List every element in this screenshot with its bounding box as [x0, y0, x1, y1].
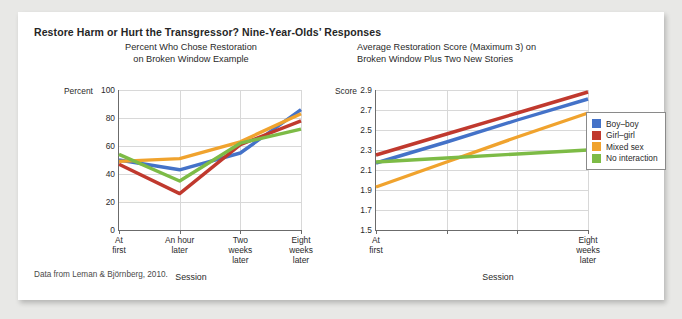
x-tick-label: At first — [347, 235, 405, 255]
legend-item-label: Girl–girl — [606, 130, 635, 140]
source-note: Data from Leman & Björnberg, 2010. — [34, 270, 168, 279]
y-tick-label: 2.7 — [360, 105, 372, 115]
legend-item[interactable]: Girl–girl — [592, 130, 658, 140]
x-tick-mark — [240, 230, 241, 234]
x-tick-label: Two weeks later — [211, 235, 269, 265]
x-tick-label: Eight weeks later — [272, 235, 330, 265]
legend-swatch-icon — [592, 131, 601, 140]
chart-title-right: Average Restoration Score (Maximum 3) on… — [333, 42, 663, 65]
y-axis-label-right: Score — [335, 86, 357, 96]
y-tick-label: 2.9 — [360, 85, 372, 95]
chart-panel-left: Percent Who Chose Restoration on Broken … — [56, 42, 326, 272]
y-axis-label-left: Percent — [64, 86, 93, 96]
legend-swatch-icon — [592, 154, 601, 163]
legend: Boy–boyGirl–girlMixed sexNo interaction — [586, 112, 666, 170]
legend-item-label: Boy–boy — [606, 119, 639, 129]
chart-title-right-line2: Broken Window Plus Two New Stories — [357, 54, 663, 66]
x-tick-label: At first — [90, 235, 148, 255]
chart-title-right-line1: Average Restoration Score (Maximum 3) on — [357, 42, 663, 54]
y-tick-label: 20 — [106, 197, 115, 207]
series-line — [119, 121, 301, 194]
legend-item-label: Mixed sex — [606, 142, 644, 152]
legend-item[interactable]: No interaction — [592, 153, 658, 163]
y-tick-label: 2.5 — [360, 125, 372, 135]
x-tick-mark — [517, 230, 518, 234]
chart-title-left: Percent Who Chose Restoration on Broken … — [56, 42, 326, 65]
legend-swatch-icon — [592, 119, 601, 128]
legend-item-label: No interaction — [606, 153, 658, 163]
legend-item[interactable]: Mixed sex — [592, 142, 658, 152]
y-tick-label: 2.3 — [360, 145, 372, 155]
y-tick-label: 0 — [110, 225, 115, 235]
y-tick-label: 1.5 — [360, 225, 372, 235]
y-tick-label: 80 — [106, 113, 115, 123]
x-tick-mark — [301, 230, 302, 234]
series-line — [119, 114, 301, 162]
y-tick-label: 2.1 — [360, 165, 372, 175]
y-tick-label: 1.7 — [360, 205, 372, 215]
y-tick-label: 40 — [106, 169, 115, 179]
x-tick-mark — [119, 230, 120, 234]
series-layer — [119, 90, 301, 230]
x-tick-label: An hour later — [151, 235, 209, 255]
figure-card: Restore Harm or Hurt the Transgressor? N… — [18, 12, 664, 300]
plot-area-right: 1.51.71.92.12.32.52.72.9At firstEight we… — [375, 90, 588, 231]
y-tick-label: 100 — [101, 85, 115, 95]
x-tick-mark — [588, 230, 589, 234]
x-tick-mark — [180, 230, 181, 234]
plot-area-left: 020406080100At firstAn hour laterTwo wee… — [118, 90, 301, 231]
legend-item[interactable]: Boy–boy — [592, 119, 658, 129]
x-tick-mark — [376, 230, 377, 234]
series-line — [119, 129, 301, 181]
x-axis-label-right: Session — [333, 272, 663, 282]
y-tick-label: 1.9 — [360, 185, 372, 195]
x-tick-mark — [447, 230, 448, 234]
figure-title: Restore Harm or Hurt the Transgressor? N… — [34, 26, 381, 38]
x-tick-label: Eight weeks later — [559, 235, 617, 265]
chart-title-left-line1: Percent Who Chose Restoration — [56, 42, 326, 54]
y-tick-label: 60 — [106, 141, 115, 151]
chart-title-left-line2: on Broken Window Example — [56, 54, 326, 66]
legend-swatch-icon — [592, 142, 601, 151]
series-layer — [376, 90, 588, 230]
